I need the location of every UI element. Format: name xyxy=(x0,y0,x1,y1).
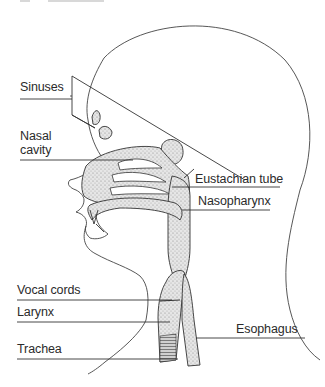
label-nasal-cavity-line1: Nasal xyxy=(20,129,51,143)
trachea-rings xyxy=(160,334,176,362)
label-nasopharynx: Nasopharynx xyxy=(198,194,271,208)
label-eustachian-tube: Eustachian tube xyxy=(195,172,283,186)
forehead-outline xyxy=(87,58,104,160)
label-vocal-cords: Vocal cords xyxy=(17,283,81,297)
maxillary-sinus xyxy=(99,126,112,139)
esophagus xyxy=(182,274,200,366)
label-trachea: Trachea xyxy=(17,342,62,356)
pharynx-column xyxy=(168,176,190,286)
anatomy-diagram: Sinuses Nasal cavity Eustachian tube Nas… xyxy=(0,0,325,387)
label-nasal-cavity-line2: cavity xyxy=(20,143,51,157)
frontal-sinus xyxy=(92,111,100,125)
label-larynx: Larynx xyxy=(17,305,54,319)
label-esophagus: Esophagus xyxy=(236,322,298,336)
label-sinuses: Sinuses xyxy=(20,80,64,94)
